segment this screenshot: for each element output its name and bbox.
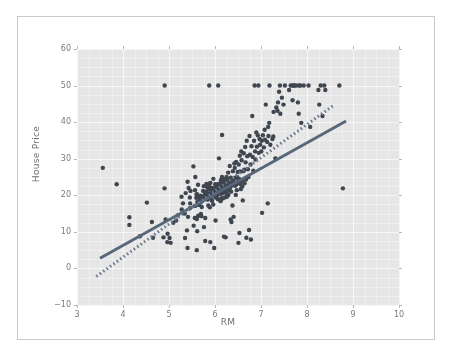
x-tick-label: 8 xyxy=(297,310,317,319)
x-tick-label: 3 xyxy=(67,310,87,319)
y-tick-label: −10 xyxy=(45,300,71,309)
y-axis-label: House Price xyxy=(31,106,41,202)
x-tick-label: 5 xyxy=(159,310,179,319)
x-tick-label: 4 xyxy=(113,310,133,319)
x-tick-label: 7 xyxy=(251,310,271,319)
y-tick-label: 60 xyxy=(45,44,71,53)
y-tick-label: 50 xyxy=(45,81,71,90)
y-tick-label: 0 xyxy=(45,263,71,272)
x-tick-label: 9 xyxy=(343,310,363,319)
y-tick-label: 40 xyxy=(45,117,71,126)
x-tick-label: 10 xyxy=(389,310,409,319)
scatter-plot-canvas xyxy=(18,17,436,341)
x-tick-label: 6 xyxy=(205,310,225,319)
y-tick-label: 30 xyxy=(45,154,71,163)
y-tick-label: 10 xyxy=(45,227,71,236)
y-tick-label: 20 xyxy=(45,190,71,199)
figure-frame: House Price RM −100102030405060 34567891… xyxy=(17,16,435,340)
